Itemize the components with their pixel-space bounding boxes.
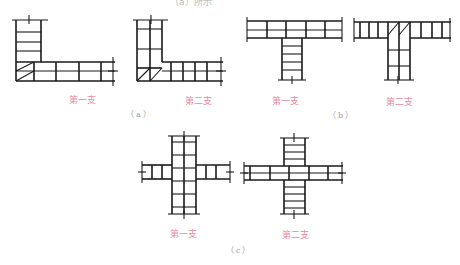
caption-b: （b） bbox=[328, 109, 355, 120]
label-b-course-2: 第二支 bbox=[386, 95, 413, 108]
brick-bond-diagrams bbox=[0, 0, 460, 265]
diagram-b-course-1 bbox=[247, 17, 342, 84]
label-c-course-1: 第一支 bbox=[170, 227, 197, 240]
diagram-b-course-2 bbox=[354, 18, 451, 84]
label-b-course-1: 第一支 bbox=[272, 94, 299, 107]
diagram-c-course-1 bbox=[138, 131, 234, 219]
label-a-course-2: 第二支 bbox=[185, 94, 212, 107]
caption-c: （c） bbox=[226, 244, 252, 255]
label-c-course-2: 第二支 bbox=[282, 228, 309, 241]
diagram-a-course-1 bbox=[12, 15, 118, 86]
diagram-a-course-2 bbox=[133, 15, 226, 86]
caption-a: （a） bbox=[126, 108, 153, 119]
label-a-course-1: 第一支 bbox=[69, 93, 96, 106]
diagram-c-course-2 bbox=[240, 133, 346, 219]
